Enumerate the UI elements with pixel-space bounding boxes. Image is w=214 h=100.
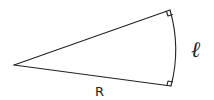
upper-radius-line (14, 10, 170, 65)
arc (170, 10, 176, 86)
sector-diagram (0, 0, 214, 100)
lower-radius-line (14, 65, 171, 86)
arc-length-label: ℓ (191, 37, 200, 63)
radius-label: R (95, 84, 104, 99)
